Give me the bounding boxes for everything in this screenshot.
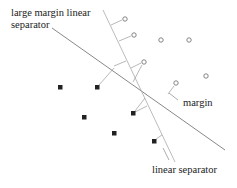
circle-distance-lines (111, 20, 174, 94)
square-point (131, 111, 136, 116)
square-point (82, 115, 87, 120)
circle-point (159, 38, 163, 42)
circle-point (132, 33, 136, 37)
circle-point (123, 17, 127, 21)
linear-separator-label: linear separator (152, 164, 217, 176)
label-leader-lines (163, 93, 178, 160)
square-point (95, 85, 100, 90)
margin-label: margin (183, 97, 213, 109)
square-distance-lines (99, 61, 162, 139)
large-margin-separator-line (52, 28, 225, 150)
circle-points (123, 17, 208, 85)
circle-point (142, 60, 146, 64)
square-point (152, 139, 157, 144)
circle-point (174, 81, 178, 85)
linear-separator-line (103, 10, 175, 162)
square-points (58, 85, 157, 144)
large-margin-label-line2: separator (11, 19, 49, 31)
large-margin-label-line1: large margin linear (11, 7, 91, 19)
circle-point (187, 38, 191, 42)
square-point (112, 131, 117, 136)
square-point (58, 85, 63, 90)
circle-point (204, 74, 208, 78)
